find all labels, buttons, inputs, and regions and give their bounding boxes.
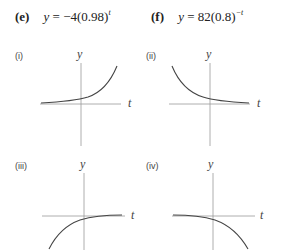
curve-iii xyxy=(49,215,122,249)
curve-i xyxy=(41,66,117,103)
graph-panels xyxy=(0,0,283,250)
curve-ii xyxy=(172,66,249,103)
curve-iv xyxy=(173,215,248,249)
